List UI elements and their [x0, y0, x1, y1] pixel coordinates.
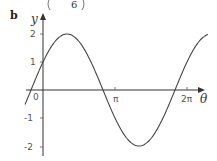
y-tick-label: -2: [24, 142, 33, 152]
header-fragment: 6: [71, 0, 77, 10]
y-tick-label: 2: [30, 29, 36, 39]
y-axis-arrow-icon: [40, 13, 46, 20]
x-tick-label: π: [113, 94, 119, 104]
x-axis-label: θ: [200, 92, 208, 106]
x-tick-label: 0: [33, 92, 39, 102]
paren-fragment: [48, 0, 50, 10]
y-tick-label: -1: [24, 113, 33, 123]
x-tick-label: 2π: [181, 94, 193, 104]
sine-graph: 6 b y θ 2 1 -1 -2 0 π 2π: [0, 0, 217, 161]
y-tick-label: 1: [30, 57, 36, 67]
paren-fragment-right: [82, 0, 84, 10]
part-label: b: [10, 9, 18, 22]
y-axis-label: y: [30, 12, 38, 26]
